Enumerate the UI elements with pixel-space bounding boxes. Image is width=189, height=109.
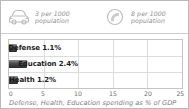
chart-area: Defense 1.1% Education 2.4% Health 1.2% … (1, 34, 189, 109)
stat-vehicles-text: 3 per 1000 population (35, 10, 70, 25)
car-icon (7, 6, 31, 28)
table-row: Health 1.2% (9, 76, 182, 84)
stats-row: 3 per 1000 population 8 per 1000 populat… (1, 1, 189, 34)
x-tick-label: 20 (144, 90, 152, 97)
x-axis: 0 5 10 15 20 25 (8, 90, 183, 99)
x-tick-label: 15 (109, 90, 117, 97)
stat-vehicles: 3 per 1000 population (1, 6, 98, 28)
bar-label-health: Health 1.2% (9, 76, 56, 84)
bar-label-defense: Defense 1.1% (8, 44, 61, 52)
stat-phones-text: 8 per 1000 population (131, 10, 166, 25)
gridline-horizontal (9, 72, 182, 73)
plot-frame: Defense 1.1% Education 2.4% Health 1.2% (8, 39, 183, 89)
table-row: Defense 1.1% (9, 44, 182, 52)
x-tick-label: 0 (9, 90, 13, 97)
stat-phones: 8 per 1000 population (98, 6, 189, 28)
phone-icon (103, 6, 127, 28)
chart-caption: Defense, Health, Education spending as %… (9, 99, 184, 107)
infographic-card: 3 per 1000 population 8 per 1000 populat… (0, 0, 189, 109)
x-tick-label: 5 (41, 90, 45, 97)
x-tick-label: 25 (176, 90, 184, 97)
table-row: Education 2.4% (9, 60, 182, 68)
gridline-horizontal (9, 56, 182, 57)
x-tick-label: 10 (74, 90, 82, 97)
bar-label-education: Education 2.4% (18, 60, 78, 68)
